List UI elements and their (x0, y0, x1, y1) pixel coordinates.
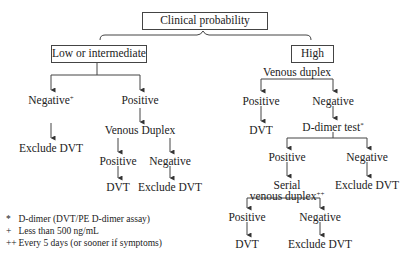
low-negative-footnote-mark: + (70, 94, 74, 102)
footnote-d-dimer: * D-dimer (DVT/PE D-dimer assay) (6, 214, 150, 225)
high-negative-label: Negative (312, 95, 354, 108)
low-negative-text: Negative (28, 94, 70, 106)
d-dimer-positive-label: Positive (268, 151, 305, 164)
high-box: High (291, 45, 334, 63)
footnote-text: Less than 500 ng/mL (18, 226, 98, 236)
high-venous-duplex-label: Venous duplex (263, 66, 331, 79)
low-duplex-positive-outcome: DVT (106, 181, 130, 194)
d-dimer-test-label: D-dimer test* (302, 121, 363, 134)
low-venous-duplex-label: Venous Duplex (105, 124, 176, 137)
low-duplex-positive-label: Positive (99, 155, 136, 168)
serial-positive-label: Positive (228, 211, 265, 224)
low-intermediate-box: Low or intermediate (51, 45, 147, 63)
footnote-threshold: + Less than 500 ng/mL (6, 226, 99, 237)
footnote-mark: + (6, 226, 16, 237)
high-positive-outcome: DVT (249, 124, 273, 137)
footnote-serial-interval: ++ Every 5 days (or sooner if symptoms) (6, 238, 162, 249)
serial-negative-label: Negative (299, 211, 341, 224)
clinical-probability-box: Clinical probability (142, 12, 268, 30)
dvt-diagnostic-flowchart: Clinical probability Low or intermediate… (0, 0, 406, 257)
d-dimer-negative-label: Negative (346, 151, 388, 164)
footnote-mark: ++ (6, 238, 16, 249)
serial-duplex-footnote-mark: ++ (316, 190, 324, 198)
low-duplex-negative-label: Negative (149, 155, 191, 168)
serial-duplex-line2: venous duplex++ (250, 190, 325, 203)
d-dimer-negative-outcome: Exclude DVT (335, 179, 399, 192)
low-negative-label: Negative+ (28, 94, 73, 107)
d-dimer-test-text: D-dimer test (302, 121, 360, 133)
serial-duplex-text: venous duplex (250, 190, 317, 202)
serial-negative-outcome: Exclude DVT (288, 238, 352, 251)
low-positive-label: Positive (121, 94, 158, 107)
high-positive-label: Positive (242, 95, 279, 108)
footnote-text: D-dimer (DVT/PE D-dimer assay) (18, 214, 150, 224)
footnote-mark: * (6, 214, 16, 225)
d-dimer-footnote-mark: * (360, 121, 364, 129)
low-duplex-negative-outcome: Exclude DVT (138, 181, 202, 194)
serial-positive-outcome: DVT (235, 238, 259, 251)
low-negative-outcome: Exclude DVT (19, 142, 83, 155)
footnote-text: Every 5 days (or sooner if symptoms) (18, 238, 162, 248)
